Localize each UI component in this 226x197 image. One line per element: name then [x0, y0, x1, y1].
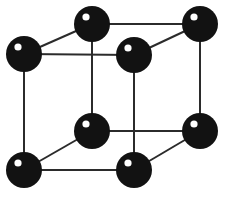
atom-specular-highlight-icon [124, 44, 131, 51]
atom-sphere [74, 6, 110, 42]
atom-specular-highlight-icon [82, 13, 89, 20]
atom-sphere [182, 6, 218, 42]
atom-specular-highlight-icon [190, 13, 197, 20]
lattice-atom-back-bottom-left [74, 113, 110, 149]
atom-specular-highlight-icon [190, 120, 197, 127]
atom-sphere [6, 152, 42, 188]
atom-sphere [74, 113, 110, 149]
cell-edge-group [24, 24, 200, 170]
lattice-atom-back-top-right [182, 6, 218, 42]
atom-sphere [6, 36, 42, 72]
lattice-diagram-canvas [0, 0, 226, 197]
lattice-atom-front-top-left [6, 36, 42, 72]
atom-sphere [116, 152, 152, 188]
atom-specular-highlight-icon [124, 159, 131, 166]
atom-specular-highlight-icon [82, 120, 89, 127]
simple-cubic-unit-cell-figure [0, 0, 226, 197]
lattice-atom-front-top-right [116, 37, 152, 73]
atom-specular-highlight-icon [14, 159, 21, 166]
lattice-atom-front-bottom-left [6, 152, 42, 188]
atom-sphere [182, 113, 218, 149]
lattice-atom-group [6, 6, 218, 188]
lattice-atom-back-top-left [74, 6, 110, 42]
atom-sphere [116, 37, 152, 73]
atom-specular-highlight-icon [14, 43, 21, 50]
lattice-atom-front-bottom-right [116, 152, 152, 188]
lattice-atom-back-bottom-right [182, 113, 218, 149]
